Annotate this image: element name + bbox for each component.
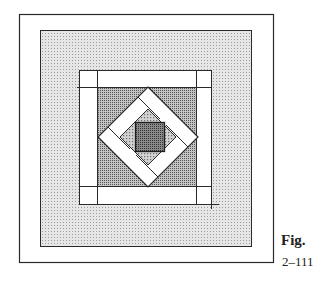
center-square xyxy=(136,123,165,152)
figure-number: 2–111 xyxy=(282,254,314,270)
figure-label: Fig. xyxy=(281,232,306,249)
quilt-block-diagram xyxy=(0,0,321,286)
